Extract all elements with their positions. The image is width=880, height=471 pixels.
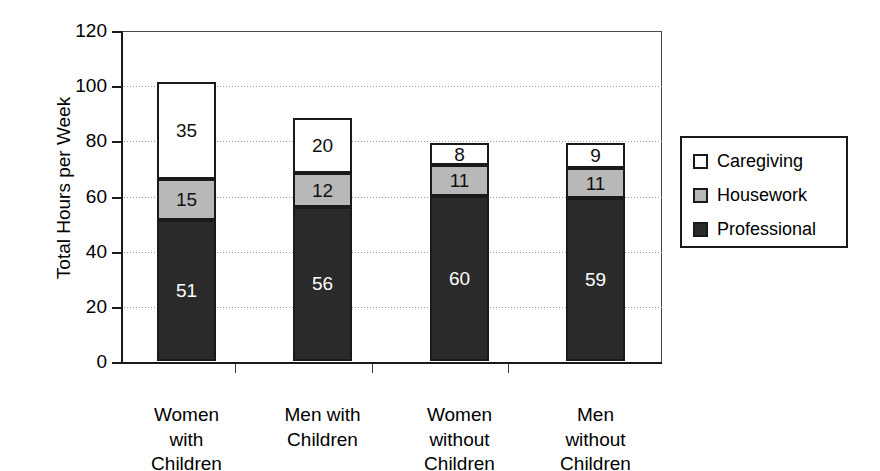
x-category-tick bbox=[235, 364, 236, 373]
y-tick-mark bbox=[112, 307, 121, 309]
y-tick-mark bbox=[112, 252, 121, 254]
bar-segment-professional[interactable]: 59 bbox=[566, 198, 625, 361]
bar-stack[interactable]: 60118 bbox=[430, 143, 489, 361]
y-axis-line bbox=[121, 31, 123, 364]
y-tick-label: 80 bbox=[86, 130, 107, 152]
legend-item[interactable]: Housework bbox=[693, 185, 807, 206]
legend-label: Caregiving bbox=[717, 151, 803, 172]
legend-label: Professional bbox=[717, 219, 816, 240]
y-axis-title: Total Hours per Week bbox=[53, 28, 75, 348]
bar-segment-caregiving[interactable]: 8 bbox=[430, 143, 489, 165]
bar-stack[interactable]: 561220 bbox=[293, 118, 352, 361]
x-category-tick bbox=[508, 364, 509, 373]
stacked-bar-chart-figure: Total Hours per Week 020406080100120 511… bbox=[0, 0, 880, 471]
legend-item[interactable]: Caregiving bbox=[693, 151, 803, 172]
bar-stack[interactable]: 511535 bbox=[157, 82, 216, 361]
bar-segment-caregiving[interactable]: 35 bbox=[157, 82, 216, 179]
bar-segment-professional[interactable]: 51 bbox=[157, 220, 216, 361]
legend-swatch-icon bbox=[693, 154, 708, 169]
y-tick-label: 120 bbox=[75, 20, 107, 42]
y-tick-label: 0 bbox=[96, 351, 107, 373]
bar-segment-professional[interactable]: 56 bbox=[293, 207, 352, 361]
plot-top-border bbox=[121, 31, 662, 32]
x-axis-line bbox=[121, 362, 662, 364]
legend-label: Housework bbox=[717, 185, 807, 206]
x-category-tick bbox=[372, 364, 373, 373]
y-tick-mark bbox=[112, 197, 121, 199]
bar-segment-housework[interactable]: 15 bbox=[157, 179, 216, 220]
legend-swatch-icon bbox=[693, 188, 708, 203]
x-axis-label: Men with Children bbox=[243, 403, 403, 452]
legend-swatch-icon bbox=[693, 222, 708, 237]
bar-segment-housework[interactable]: 11 bbox=[430, 165, 489, 195]
bar-segment-caregiving[interactable]: 20 bbox=[293, 118, 352, 173]
y-tick-label: 100 bbox=[75, 75, 107, 97]
y-tick-label: 40 bbox=[86, 241, 107, 263]
y-tick-mark bbox=[112, 141, 121, 143]
y-tick-label: 60 bbox=[86, 186, 107, 208]
y-tick-label: 20 bbox=[86, 296, 107, 318]
bar-segment-housework[interactable]: 12 bbox=[293, 173, 352, 206]
bar-stack[interactable]: 59119 bbox=[566, 143, 625, 361]
bar-segment-caregiving[interactable]: 9 bbox=[566, 143, 625, 168]
bar-segment-housework[interactable]: 11 bbox=[566, 168, 625, 198]
y-tick-mark bbox=[112, 362, 121, 364]
legend-item[interactable]: Professional bbox=[693, 219, 816, 240]
y-tick-mark bbox=[112, 31, 121, 33]
y-tick-mark bbox=[112, 86, 121, 88]
chart-legend: CaregivingHouseworkProfessional bbox=[680, 136, 848, 248]
bar-segment-professional[interactable]: 60 bbox=[430, 196, 489, 362]
x-axis-label: Men without Children bbox=[516, 403, 676, 471]
plot-area: 020406080100120 5115355612206011859119 W… bbox=[121, 31, 662, 363]
